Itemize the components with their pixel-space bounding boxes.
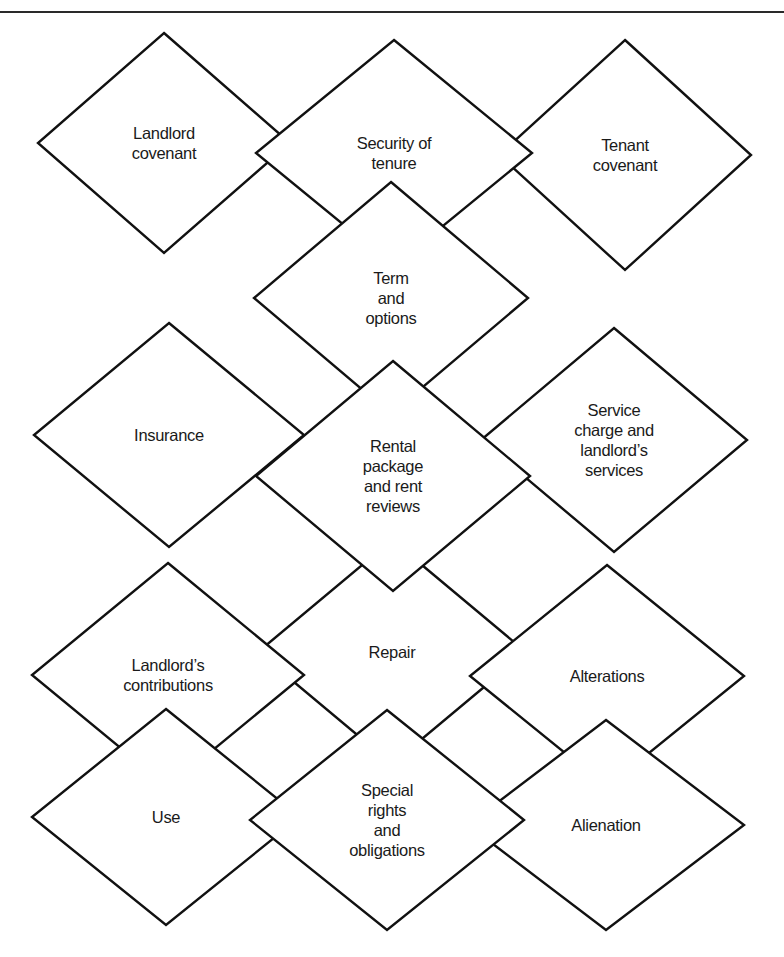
diamond-landlord-covenant: Landlordcovenant	[38, 33, 290, 253]
diamond-label: reviews	[366, 497, 420, 515]
diamond-outline	[481, 328, 747, 552]
diamond-label: Repair	[369, 643, 417, 661]
diamond-rental-package: Rentalpackageand rentreviews	[256, 361, 530, 591]
diamond-label: Security of	[357, 134, 432, 152]
diamond-label: Landlord	[133, 124, 195, 142]
diamond-label: options	[365, 309, 416, 327]
diamond-service-charge: Servicecharge andlandlord’sservices	[481, 328, 747, 552]
diamond-tenant-covenant: Tenantcovenant	[499, 40, 751, 270]
diamond-label: obligations	[349, 841, 425, 859]
diamond-label: contributions	[123, 676, 213, 694]
diamond-label: Tenant	[601, 136, 649, 154]
diamond-label: Term	[373, 269, 408, 287]
diamond-label: Use	[152, 808, 181, 826]
diamond-label: tenure	[372, 154, 417, 172]
diamond-label: Alienation	[571, 816, 641, 834]
diamond-label: and	[378, 289, 405, 307]
diamond-label: services	[585, 461, 643, 479]
diamond-label: Landlord’s	[132, 656, 205, 674]
diamond-label: charge and	[574, 421, 654, 439]
diamond-outline	[38, 33, 290, 253]
diamond-outline	[499, 40, 751, 270]
diamond-outline	[256, 361, 530, 591]
diamond-label: Service	[588, 401, 641, 419]
diamond-label: package	[363, 457, 423, 475]
lease-terms-diamond-diagram: RepairLandlordcovenantTenantcovenantSecu…	[0, 0, 784, 957]
diamond-insurance: Insurance	[34, 323, 304, 547]
diamond-label: rights	[368, 801, 407, 819]
diamond-special-rights: Specialrightsandobligations	[250, 710, 524, 930]
diamond-outline	[250, 710, 524, 930]
diamond-label: covenant	[593, 156, 658, 174]
diamond-label: landlord’s	[580, 441, 647, 459]
diamond-label: and	[374, 821, 401, 839]
diamond-label: Alterations	[570, 667, 645, 685]
diamond-label: and rent	[364, 477, 423, 495]
diamond-label: Insurance	[134, 426, 204, 444]
diamond-label: covenant	[132, 144, 197, 162]
diamond-label: Rental	[370, 437, 416, 455]
diamond-label: Special	[361, 781, 413, 799]
